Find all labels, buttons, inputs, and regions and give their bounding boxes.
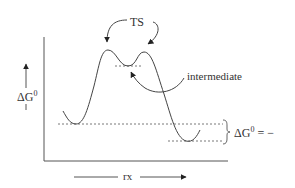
delta-g-brace-icon [223,120,230,144]
ts-arrow-right-icon [148,22,158,44]
delta-g-label: ΔG0 = − [234,125,274,140]
transition-state-label: TS [130,15,144,29]
intermediate-label: intermediate [187,70,242,82]
reaction-energy-diagram: ΔG0 rx TS intermediate ΔG0 = − [0,0,295,188]
reaction-profile-curve [63,50,200,141]
x-axis-label: rx [123,170,133,182]
ts-arrow-left-icon [107,20,127,42]
